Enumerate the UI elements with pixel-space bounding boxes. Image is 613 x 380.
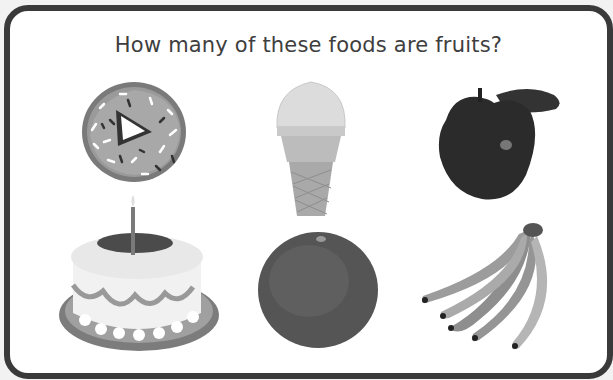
ice-cream-cone-image <box>275 80 347 220</box>
birthday-cake-image <box>55 195 220 353</box>
donut-image <box>80 80 190 185</box>
bananas-image <box>419 220 564 355</box>
question-title: How many of these foods are fruits? <box>10 33 607 57</box>
apple-image <box>434 85 564 205</box>
orange-image <box>257 231 379 349</box>
